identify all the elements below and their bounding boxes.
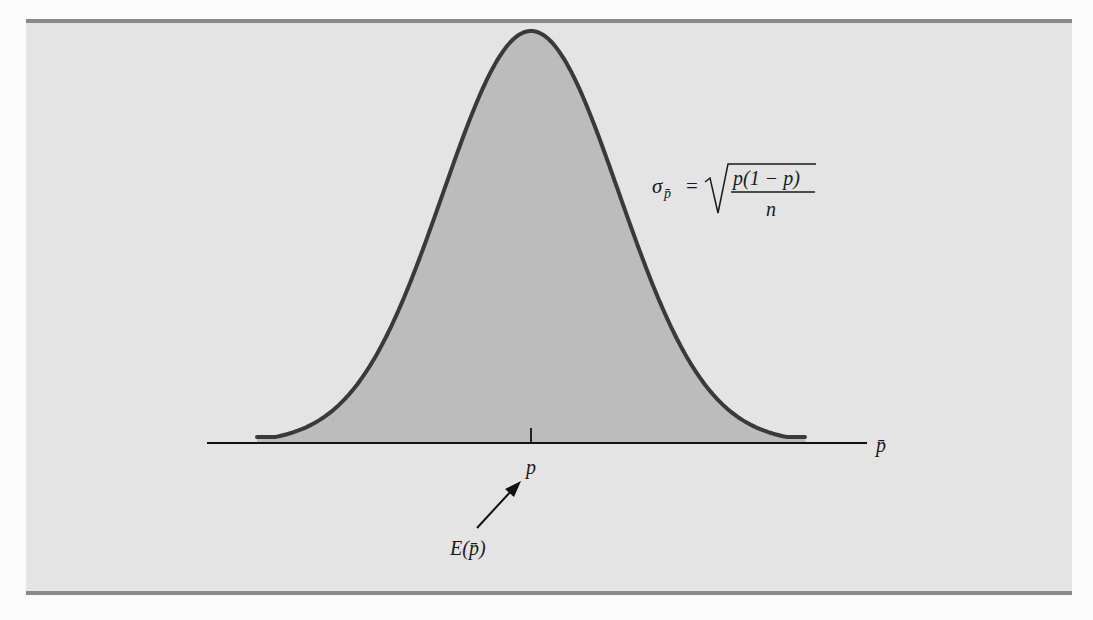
normal-curve-figure: p̄ p E(p̄) σ p̄ = p(1 − p) n (0, 0, 1093, 620)
svg-text:p(1 − p): p(1 − p) (731, 167, 800, 190)
std-error-formula: σ p̄ = p(1 − p) n (652, 164, 816, 220)
expected-value-label: E(p̄) (449, 537, 486, 560)
svg-text:p̄: p̄ (663, 186, 671, 201)
svg-text:n: n (766, 198, 776, 220)
svg-text:=: = (686, 174, 698, 198)
center-label: p (524, 456, 536, 479)
distribution-area (257, 31, 806, 443)
arrow (477, 481, 521, 528)
svg-text:σ: σ (652, 174, 664, 198)
axis-label: p̄ (874, 434, 886, 457)
